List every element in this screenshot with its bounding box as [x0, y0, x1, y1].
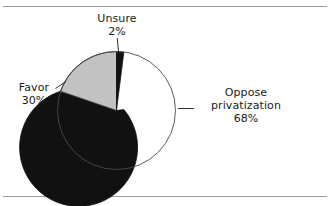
pie-slice-unsure — [117, 51, 124, 110]
leader-line-unsure — [117, 38, 118, 52]
pie-label-unsure: Unsure 2% — [86, 12, 148, 38]
pie-chart-figure: Unsure 2% Favor 30% Oppose privatization… — [0, 0, 330, 206]
pie-label-oppose: Oppose privatization 68% — [198, 86, 294, 125]
pie-label-favor: Favor 30% — [8, 81, 60, 107]
pie-label-oppose-value: 68% — [198, 112, 294, 125]
pie-label-oppose-name-line2: privatization — [198, 99, 294, 112]
pie-label-unsure-value: 2% — [86, 25, 148, 38]
pie-slice-oppose — [20, 91, 138, 206]
pie-label-favor-name: Favor — [8, 81, 60, 94]
pie-label-favor-value: 30% — [8, 94, 60, 107]
pie-label-oppose-name-line1: Oppose — [198, 86, 294, 99]
pie-label-unsure-name: Unsure — [86, 12, 148, 25]
